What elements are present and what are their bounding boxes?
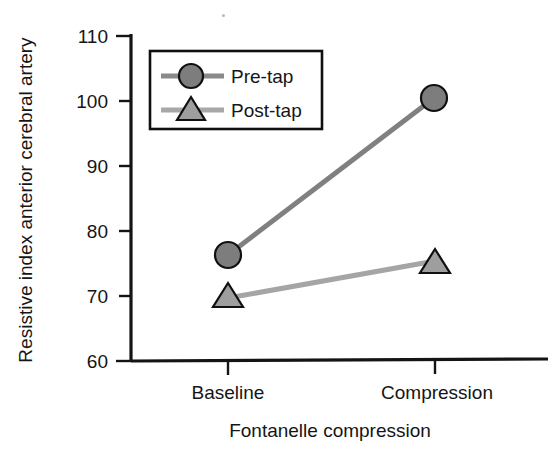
x-axis-line: [131, 359, 548, 361]
legend: Pre-tap Post-tap: [150, 51, 322, 129]
pre-tap-marker-compression: [421, 85, 447, 111]
x-tick-label-compression: Compression: [381, 382, 493, 403]
post-tap-line-segment: [228, 261, 435, 298]
y-tick-label-80: 80: [87, 221, 108, 242]
y-tick-label-110: 110: [78, 26, 108, 47]
x-axis-title: Fontanelle compression: [229, 420, 431, 441]
legend-label-pre-tap: Pre-tap: [231, 66, 293, 87]
y-tick-label-70: 70: [87, 286, 108, 307]
x-axis: Baseline Compression: [131, 359, 548, 403]
legend-label-post-tap: Post-tap: [231, 100, 302, 121]
y-axis-title: Resistive index anterior cerebral artery: [15, 37, 36, 363]
y-tick-label-100: 100: [76, 91, 108, 112]
series-post-tap: [213, 249, 450, 307]
y-axis: 110 100 90 80 70 60: [76, 26, 131, 372]
figure-container: 110 100 90 80 70 60 Baseline Compression…: [0, 0, 555, 453]
filled-circle-marker-icon: [179, 64, 203, 88]
line-chart: 110 100 90 80 70 60 Baseline Compression…: [0, 0, 555, 453]
pre-tap-marker-baseline: [215, 242, 241, 268]
x-tick-label-baseline: Baseline: [192, 382, 265, 403]
y-tick-label-90: 90: [87, 156, 108, 177]
y-tick-label-60: 60: [87, 351, 108, 372]
